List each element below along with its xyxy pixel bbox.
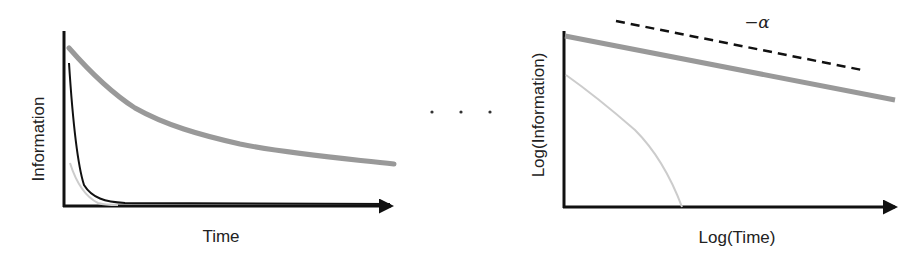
left-chart: Information Time [29, 31, 394, 246]
ellipsis-dot [488, 110, 491, 113]
right-thick-gray-line [565, 36, 895, 100]
slope-alpha-label: −α [744, 12, 770, 32]
ellipsis-dot [459, 110, 462, 113]
left-light-gray-curve [70, 163, 118, 205]
right-x-axis-label: Log(Time) [699, 228, 776, 247]
figure: Information Time −α Log(Information) Log… [0, 0, 918, 262]
left-black-curve [69, 63, 390, 204]
ellipsis-separator [430, 110, 491, 113]
left-x-axis-label: Time [202, 227, 239, 246]
right-y-axis-label: Log(Information) [529, 53, 548, 178]
right-chart: −α Log(Information) Log(Time) [529, 12, 895, 247]
left-y-axis-label: Information [29, 96, 48, 181]
right-slope-reference-dashed [616, 21, 862, 70]
right-light-gray-curve [566, 75, 682, 207]
ellipsis-dot [430, 110, 433, 113]
left-thick-gray-curve [69, 48, 394, 164]
